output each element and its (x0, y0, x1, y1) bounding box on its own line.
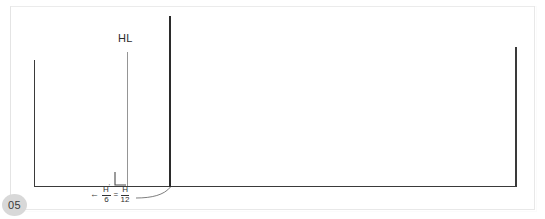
left-fraction-denominator: 6 (104, 196, 108, 205)
right-fraction-denominator: 12 (121, 196, 130, 205)
equals-sign: = (113, 191, 118, 199)
technical-drawing (0, 0, 545, 219)
right-angle-mark (115, 172, 126, 185)
horizon-line-label: HL (118, 33, 133, 44)
right-fraction: H 12 (121, 186, 130, 204)
proportion-annotation: ← H′ 6 = H 12 (90, 186, 130, 204)
prime-mark: ′ (109, 183, 110, 189)
page-number-badge: 05 (2, 194, 27, 216)
leader-curve (136, 187, 171, 198)
diagram-canvas: HL ← H′ 6 = H 12 05 (0, 0, 545, 219)
left-arrow-icon: ← (90, 190, 99, 199)
left-fraction: H′ 6 (102, 186, 111, 204)
